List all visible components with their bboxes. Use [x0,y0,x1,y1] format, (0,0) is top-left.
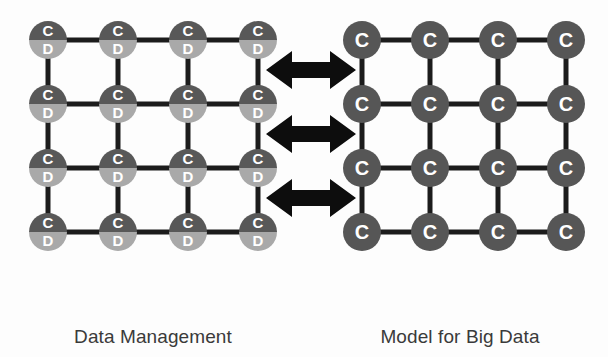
left-caption-line: Data Management [8,324,298,349]
data-node-compute-label: C [43,150,54,167]
data-node: CD [169,213,207,251]
model-node: C [411,213,449,251]
model-node: C [411,85,449,123]
data-node-compute-label: C [43,86,54,103]
data-node-compute-label: C [253,22,264,39]
data-node: CD [29,21,67,59]
data-node-compute-label: C [253,150,264,167]
data-node-data-label: D [113,104,124,121]
data-node: CD [99,213,137,251]
data-node: CD [29,85,67,123]
data-node-compute-label: C [253,86,264,103]
model-node: C [479,213,517,251]
right-grid-caption: Model for Big Data and Simulation [318,274,602,357]
model-node-label: C [423,93,437,115]
data-node-data-label: D [183,104,194,121]
data-node-data-label: D [113,232,124,249]
model-node: C [343,21,381,59]
model-node-label: C [491,93,505,115]
data-node-data-label: D [253,40,264,57]
model-node-label: C [491,29,505,51]
data-node: CD [239,213,277,251]
model-node: C [547,85,585,123]
data-node-data-label: D [43,232,54,249]
data-node-data-label: D [43,40,54,57]
data-node-compute-label: C [113,22,124,39]
data-node-data-label: D [253,104,264,121]
model-node-label: C [355,93,369,115]
model-node-label: C [559,221,573,243]
model-node: C [343,85,381,123]
model-node-label: C [423,157,437,179]
model-node-label: C [559,93,573,115]
model-node: C [479,149,517,187]
right-caption-line-1: Model for Big Data [318,324,602,349]
model-node-label: C [355,29,369,51]
model-node: C [343,213,381,251]
data-node: CD [239,149,277,187]
data-node-compute-label: C [43,214,54,231]
data-node-data-label: D [43,168,54,185]
data-node-data-label: D [183,40,194,57]
model-node-label: C [423,221,437,243]
model-node: C [479,85,517,123]
data-node-data-label: D [113,40,124,57]
data-node: CD [239,21,277,59]
data-node: CD [99,149,137,187]
data-node: CD [169,85,207,123]
model-node: C [343,149,381,187]
data-node: CD [169,149,207,187]
data-node-compute-label: C [113,214,124,231]
data-node: CD [29,149,67,187]
data-node-compute-label: C [183,86,194,103]
model-node-label: C [491,221,505,243]
data-node-data-label: D [113,168,124,185]
model-node: C [411,21,449,59]
data-node-compute-label: C [183,22,194,39]
data-node-compute-label: C [253,214,264,231]
data-node-data-label: D [183,232,194,249]
data-node-compute-label: C [183,150,194,167]
model-node: C [547,21,585,59]
model-node: C [547,149,585,187]
data-node-compute-label: C [113,86,124,103]
data-node: CD [99,85,137,123]
model-node-label: C [355,157,369,179]
model-node-label: C [355,221,369,243]
data-node-data-label: D [253,168,264,185]
diagram-canvas: CDCDCDCDCDCDCDCDCDCDCDCDCDCDCDCD CCCCCCC… [0,0,608,357]
model-node-label: C [491,157,505,179]
model-node: C [479,21,517,59]
left-grid-caption: Data Management [8,274,298,357]
data-node: CD [169,21,207,59]
data-node: CD [29,213,67,251]
sync-arrow-group [266,51,356,217]
data-node-data-label: D [253,232,264,249]
data-node-compute-label: C [113,150,124,167]
data-node-data-label: D [183,168,194,185]
model-node-label: C [559,157,573,179]
model-node-label: C [559,29,573,51]
data-node: CD [99,21,137,59]
data-node-compute-label: C [183,214,194,231]
model-node-label: C [423,29,437,51]
model-node: C [547,213,585,251]
data-node-data-label: D [43,104,54,121]
data-node: CD [239,85,277,123]
model-node: C [411,149,449,187]
data-node-compute-label: C [43,22,54,39]
